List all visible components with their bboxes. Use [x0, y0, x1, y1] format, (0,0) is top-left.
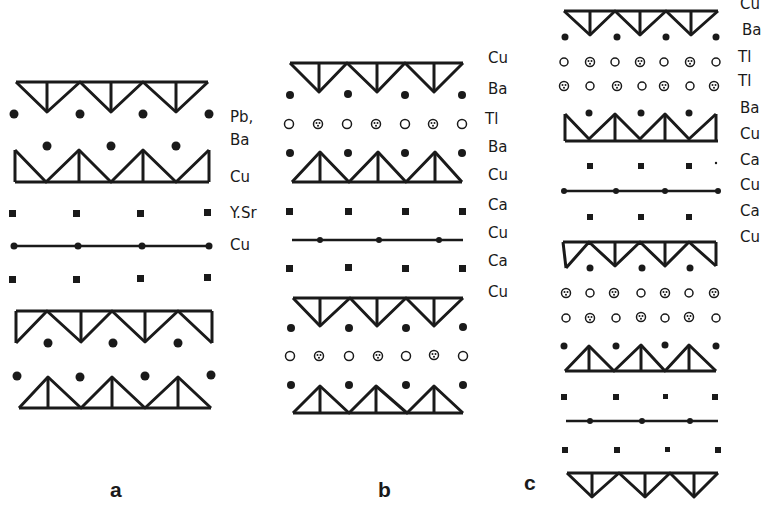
ca-atoms-3 — [561, 394, 718, 400]
tl-atoms — [285, 120, 467, 129]
ba-atoms-3 — [587, 265, 694, 272]
layer-label: Ba — [488, 138, 507, 156]
cuo-pyramid-layer-down-3 — [567, 473, 718, 497]
cuo-pyramid-layer-down-2 — [16, 311, 212, 343]
cuo-pyramid-layer-down-2 — [293, 298, 463, 326]
layer-label: Ca — [488, 196, 508, 214]
layer-label: Y.Sr — [229, 204, 257, 222]
y-sr-atoms-2 — [9, 274, 211, 283]
layer-label: Cu — [488, 283, 508, 301]
layer-label: Tl — [484, 110, 498, 128]
ca-atoms — [286, 208, 466, 215]
layer-label: Cu — [488, 49, 508, 67]
ca-atoms — [587, 162, 717, 169]
layer-label: Pb, — [230, 108, 253, 126]
cuo-pyramid-layer-down-2 — [563, 242, 716, 268]
layer-label: Cu — [740, 228, 760, 246]
cuo-pyramid-layer-up — [292, 152, 462, 182]
cuo-pyramid-layer-up-2 — [19, 377, 211, 408]
panel-label-a: a — [110, 478, 122, 501]
layer-label: Ba — [740, 99, 759, 117]
ba-atoms-2 — [586, 110, 693, 117]
panel-c: Cu Ba Tl Tl Ba Cu Ca Cu Ca Cu c — [524, 0, 761, 497]
structure-diagram: Pb, Ba Cu Y.Sr Cu a — [0, 0, 775, 520]
layer-label: Tl — [737, 72, 751, 90]
layer-label: Cu — [740, 125, 760, 143]
layer-label: Cu — [230, 168, 250, 186]
panel-b: Cu Ba Tl Ba Cu Ca Cu Ca Cu b — [285, 49, 508, 501]
cuo-pyramid-layer-up-2 — [565, 345, 716, 371]
cuo-pyramid-layer-up-2 — [293, 386, 463, 413]
ca-atoms-2 — [587, 214, 692, 220]
cuo-pyramid-layer-up — [565, 114, 718, 141]
pb-ba-atoms — [10, 110, 214, 151]
cuo2-plane — [11, 243, 213, 250]
y-sr-atoms — [9, 209, 211, 217]
layer-label: Ca — [488, 252, 508, 270]
layer-label: Ba — [230, 131, 249, 149]
cuo2-plane — [292, 237, 463, 243]
layer-label: Ca — [740, 151, 760, 169]
layer-label: Ba — [488, 80, 507, 98]
layer-label: Ba — [742, 21, 761, 39]
layer-label: Ca — [740, 202, 760, 220]
panel-label-c: c — [524, 471, 536, 494]
cuo-pyramid-layer-down — [564, 11, 718, 35]
layer-label: Cu — [740, 0, 760, 13]
pb-ba-atoms-2 — [13, 339, 216, 382]
layer-label: Cu — [740, 176, 760, 194]
cuo2-plane-2 — [566, 418, 718, 424]
layer-label: Cu — [230, 236, 250, 254]
panel-label-b: b — [378, 478, 391, 501]
layer-label: Tl — [737, 48, 751, 66]
cuo2-plane — [561, 188, 721, 194]
panel-a: Pb, Ba Cu Y.Sr Cu a — [9, 82, 257, 501]
tl-atoms — [560, 58, 720, 67]
cuo-pyramid-layer-down — [290, 63, 463, 92]
tl-atoms-2 — [286, 351, 468, 361]
cuo-pyramid-layer-up — [15, 150, 209, 182]
cuo-pyramid-layer-down — [16, 82, 208, 112]
tl-atoms-4 — [562, 313, 720, 323]
ca-atoms-2 — [286, 264, 466, 272]
ca-atoms-4 — [562, 447, 721, 453]
tl-atoms-2 — [560, 82, 719, 91]
layer-label: Cu — [488, 166, 508, 184]
layer-label: Cu — [488, 224, 508, 242]
tl-atoms-3 — [562, 289, 719, 298]
